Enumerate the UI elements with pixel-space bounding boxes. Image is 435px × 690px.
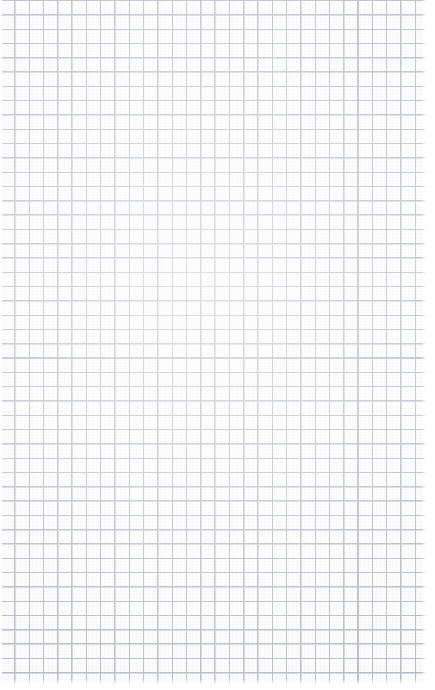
grid-lines-scan-blur	[0, 0, 435, 690]
left-margin	[0, 0, 2, 690]
grid-paper-page	[0, 0, 435, 690]
right-margin	[426, 0, 435, 690]
bottom-margin	[0, 684, 435, 690]
